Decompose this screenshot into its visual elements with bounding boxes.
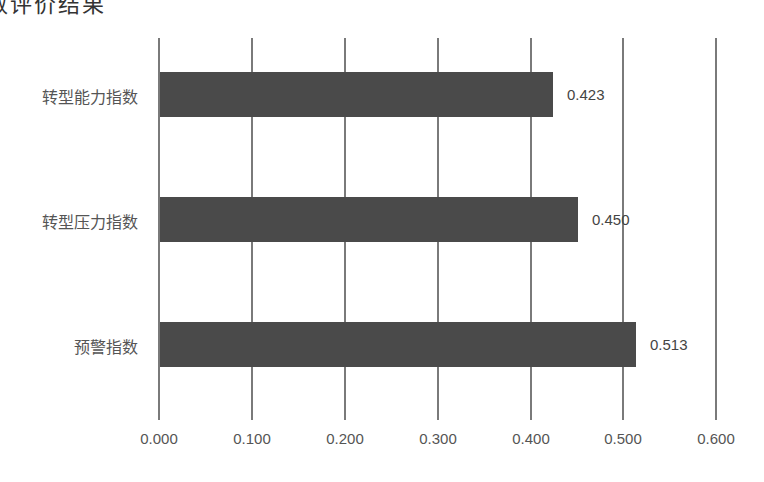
x-tick-5: 0.500 [593, 430, 653, 447]
value-label-transformation-pressure: 0.450 [592, 211, 630, 228]
x-tick-2: 0.200 [315, 430, 375, 447]
bar-chart: 0.423 0.450 0.513 转型能力指数 转型压力指数 预警指数 0.0… [0, 0, 764, 482]
bar-warning-index [160, 322, 636, 367]
value-label-transformation-capability: 0.423 [567, 86, 605, 103]
category-label-transformation-capability: 转型能力指数 [42, 84, 138, 108]
gridline-6 [715, 38, 717, 420]
category-label-warning-index: 预警指数 [74, 334, 138, 358]
x-tick-0: 0.000 [129, 430, 189, 447]
bar-transformation-pressure [160, 197, 578, 242]
x-tick-1: 0.100 [222, 430, 282, 447]
x-tick-6: 0.600 [686, 430, 746, 447]
x-tick-3: 0.300 [408, 430, 468, 447]
bar-transformation-capability [160, 72, 553, 117]
category-label-transformation-pressure: 转型压力指数 [42, 209, 138, 233]
x-tick-4: 0.400 [501, 430, 561, 447]
value-label-warning-index: 0.513 [650, 336, 688, 353]
